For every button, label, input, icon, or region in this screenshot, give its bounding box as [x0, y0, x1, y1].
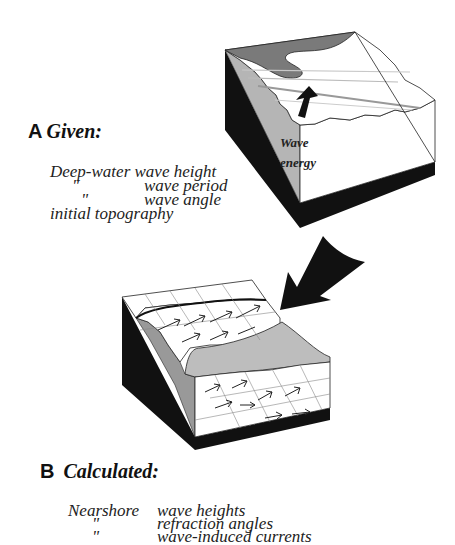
wave-label: Wave	[280, 135, 309, 150]
given-line-4: initial topography	[50, 206, 173, 221]
given-line-2-ditto: "	[72, 178, 79, 193]
panel-a-title: Given:	[46, 120, 102, 142]
wave-model-diagram: Wave energy	[0, 0, 455, 545]
panel-b-title: Calculated:	[63, 460, 159, 482]
top-block-diagram: Wave energy	[225, 32, 435, 228]
panel-a-letter: A	[28, 120, 42, 142]
calc-line-1-col1: Nearshore	[68, 503, 139, 518]
panel-b-heading: B Calculated:	[40, 460, 159, 483]
energy-label: energy	[280, 155, 316, 170]
panel-b-letter: B	[40, 460, 54, 482]
panel-a-heading: AGiven:	[28, 120, 102, 143]
calc-line-3: wave-induced currents	[157, 529, 312, 544]
process-arrow-icon	[280, 236, 365, 310]
calc-line-3-ditto: "	[92, 529, 99, 544]
